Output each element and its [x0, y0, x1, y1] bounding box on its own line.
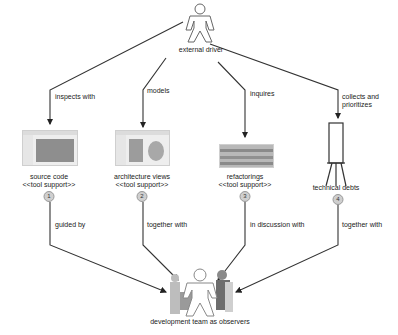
artifact-stereotype-1: <<tool support>> — [23, 181, 76, 189]
artifact-title-2: architecture views — [114, 173, 170, 181]
edge-label-models: models — [147, 87, 170, 95]
artifact-stereotype-2: <<tool support>> — [116, 181, 169, 189]
edge-label-inquires: inquires — [250, 90, 275, 98]
development-team-label: development team as observers — [150, 318, 250, 326]
artifact-number-2: 2 — [137, 191, 148, 202]
edge-label-discussion: in discussion with — [250, 221, 304, 229]
artifact-number-4: 4 — [333, 194, 344, 205]
edge-guided — [50, 202, 166, 292]
edge-label-together1: together with — [147, 221, 187, 229]
edge-inspects — [50, 22, 183, 124]
edge-label-collects: collects and prioritizes — [342, 93, 379, 109]
architecture-views-screenshot — [115, 130, 170, 166]
source-code-screenshot — [22, 130, 78, 166]
edge-together2 — [236, 202, 338, 292]
external-driver-icon — [186, 4, 214, 42]
process-diagram: external driver inspects with models inq… — [0, 0, 398, 335]
artifact-title-4: technical debts — [313, 184, 360, 192]
artifact-stereotype-3: <<tool support>> — [219, 181, 272, 189]
artifact-title-1: source code — [30, 173, 68, 181]
edge-label-guided: guided by — [55, 221, 85, 229]
artifact-number-1: 1 — [44, 191, 55, 202]
edge-collects — [210, 44, 338, 118]
edge-label-inspects: inspects with — [55, 93, 95, 101]
edge-label-together2: together with — [342, 221, 382, 229]
edge-together1 — [143, 202, 178, 280]
artifact-number-3: 3 — [240, 191, 251, 202]
edge-discussion — [218, 202, 245, 280]
edge-inquires — [218, 62, 245, 137]
external-driver-label: external driver — [179, 46, 223, 54]
flipchart-icon — [326, 123, 346, 186]
refactorings-screenshot — [219, 144, 274, 168]
artifact-title-3: refactorings — [227, 173, 264, 181]
development-team-icon — [170, 269, 233, 316]
